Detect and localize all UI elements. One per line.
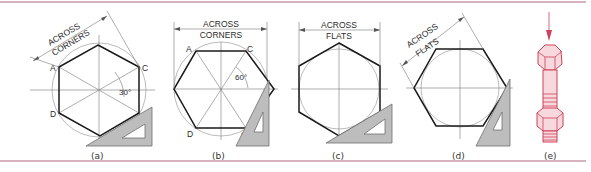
hexagon-construction-figure: ACROSS CORNERS 30° A C D B (a) ACROSS CO… xyxy=(0,0,591,172)
arrowhead xyxy=(402,60,408,66)
point-label-d: D xyxy=(187,129,193,139)
arrowhead xyxy=(261,27,267,31)
panel-d: ACROSS FLATS (d) xyxy=(400,13,513,161)
arrowhead xyxy=(101,16,107,21)
point-label-c: C xyxy=(247,44,253,54)
extension-line xyxy=(462,13,483,49)
panel-caption: (e) xyxy=(544,151,557,161)
panel-caption: (a) xyxy=(91,151,104,161)
arrowhead xyxy=(374,28,380,32)
bolt-head xyxy=(538,45,562,70)
panel-caption: (d) xyxy=(452,151,465,161)
panel-a: ACROSS CORNERS 30° A C D B (a) xyxy=(30,11,155,161)
panel-c: ACROSS FLATS (c) xyxy=(291,20,392,161)
nut xyxy=(537,108,563,131)
point-label-c: C xyxy=(142,63,148,73)
arrowhead xyxy=(174,27,180,31)
point-label-a: A xyxy=(186,44,192,54)
angle-label: 60° xyxy=(235,73,247,82)
triangle-tool xyxy=(236,80,269,146)
angle-label: 30° xyxy=(119,88,131,97)
extension-line xyxy=(400,63,414,88)
panel-b: ACROSS CORNERS 60° A C D B (b) xyxy=(173,19,278,161)
dimension-label-line2: CORNERS xyxy=(200,30,243,40)
triangle-tool xyxy=(476,79,510,146)
panel-caption: (c) xyxy=(332,151,344,161)
arrowhead xyxy=(299,28,305,32)
point-label-d: D xyxy=(50,109,56,119)
bolt-shank xyxy=(543,70,557,113)
dimension-label-line2: FLATS xyxy=(326,31,352,41)
point-label-a: A xyxy=(50,63,56,73)
panel-e: (e) xyxy=(537,12,563,161)
dimension-label-line1: ACROSS xyxy=(203,19,239,29)
panel-caption: (b) xyxy=(212,151,225,161)
dimension-label-line1: ACROSS xyxy=(321,20,357,30)
arrow-head xyxy=(546,30,552,41)
